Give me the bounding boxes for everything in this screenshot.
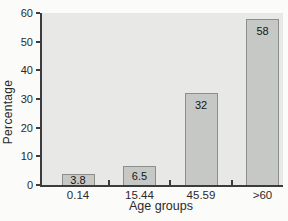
bar-value-label: 58 xyxy=(247,25,278,37)
y-tick-label: 20 xyxy=(21,122,33,134)
y-tick-label: 50 xyxy=(21,36,33,48)
x-tick-mark xyxy=(108,180,110,185)
x-tick-mark xyxy=(169,180,171,185)
y-tick-label: 40 xyxy=(21,64,33,76)
y-tick-label: 0 xyxy=(27,179,33,191)
bar-value-label: 32 xyxy=(186,99,217,111)
y-tick-mark xyxy=(36,155,40,157)
y-tick-mark xyxy=(36,41,40,43)
bar->60: 58 xyxy=(246,19,279,185)
bar-0.14: 3.8 xyxy=(62,174,95,185)
y-tick-mark xyxy=(36,98,40,100)
x-tick-label: >60 xyxy=(253,189,273,201)
bar-chart-figure: Percentage 01020304050603.80.146.515.443… xyxy=(0,0,288,221)
y-tick-label: 60 xyxy=(21,7,33,19)
y-tick-label: 10 xyxy=(21,150,33,162)
bar-value-label: 3.8 xyxy=(63,174,94,186)
y-tick-label: 30 xyxy=(21,93,33,105)
y-tick-mark xyxy=(36,184,40,186)
bar-value-label: 6.5 xyxy=(124,170,155,182)
y-axis-title: Percentage xyxy=(1,80,15,144)
y-tick-mark xyxy=(36,69,40,71)
x-axis-title: Age groups xyxy=(129,199,193,213)
x-tick-mark xyxy=(231,180,233,185)
y-tick-mark xyxy=(36,12,40,14)
plot-area: 01020304050603.80.146.515.443245.5958>60 xyxy=(40,13,283,187)
bar-45.59: 32 xyxy=(185,93,218,185)
x-tick-label: 0.14 xyxy=(67,189,89,201)
bar-15.44: 6.5 xyxy=(123,166,156,185)
y-tick-mark xyxy=(36,127,40,129)
